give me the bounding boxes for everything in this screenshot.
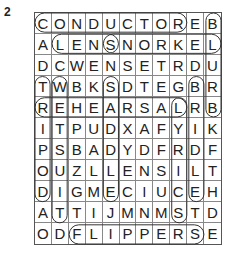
- grid-cell[interactable]: N: [120, 34, 137, 55]
- grid-cell[interactable]: L: [170, 97, 187, 118]
- grid-cell[interactable]: F: [204, 139, 221, 160]
- grid-cell[interactable]: P: [69, 118, 86, 139]
- grid-cell[interactable]: E: [187, 13, 204, 34]
- grid-cell[interactable]: E: [187, 181, 204, 202]
- grid-cell[interactable]: D: [204, 202, 221, 223]
- grid-cell[interactable]: C: [170, 181, 187, 202]
- grid-cell[interactable]: R: [204, 76, 221, 97]
- grid-cell[interactable]: L: [86, 160, 103, 181]
- grid-cell[interactable]: L: [187, 160, 204, 181]
- grid-cell[interactable]: E: [187, 34, 204, 55]
- grid-cell[interactable]: A: [35, 34, 52, 55]
- grid-cell[interactable]: T: [52, 202, 69, 223]
- grid-cell[interactable]: E: [86, 97, 103, 118]
- grid-cell[interactable]: L: [86, 223, 103, 244]
- grid-cell[interactable]: R: [35, 97, 52, 118]
- grid-cell[interactable]: I: [187, 118, 204, 139]
- grid-cell[interactable]: T: [35, 76, 52, 97]
- grid-cell[interactable]: L: [204, 34, 221, 55]
- grid-cell[interactable]: J: [103, 202, 120, 223]
- grid-cell[interactable]: N: [136, 160, 153, 181]
- grid-cell[interactable]: I: [103, 223, 120, 244]
- grid-cell[interactable]: M: [120, 202, 137, 223]
- grid-cell[interactable]: O: [136, 34, 153, 55]
- grid-cell[interactable]: E: [204, 223, 221, 244]
- grid-cell[interactable]: S: [103, 34, 120, 55]
- grid-cell[interactable]: S: [170, 202, 187, 223]
- grid-cell[interactable]: A: [153, 97, 170, 118]
- grid-cell[interactable]: R: [170, 139, 187, 160]
- grid-cell[interactable]: D: [103, 139, 120, 160]
- grid-cell[interactable]: E: [120, 160, 137, 181]
- grid-cell[interactable]: U: [204, 55, 221, 76]
- grid-cell[interactable]: N: [136, 202, 153, 223]
- grid-cell[interactable]: O: [35, 223, 52, 244]
- grid-cell[interactable]: U: [52, 160, 69, 181]
- grid-cell[interactable]: O: [153, 13, 170, 34]
- grid-cell[interactable]: S: [187, 223, 204, 244]
- grid-cell[interactable]: E: [153, 76, 170, 97]
- grid-cell[interactable]: N: [103, 55, 120, 76]
- grid-cell[interactable]: R: [170, 223, 187, 244]
- grid-cell[interactable]: A: [136, 118, 153, 139]
- grid-cell[interactable]: T: [136, 13, 153, 34]
- grid-cell[interactable]: T: [153, 55, 170, 76]
- grid-cell[interactable]: B: [204, 97, 221, 118]
- grid-cell[interactable]: L: [52, 34, 69, 55]
- grid-cell[interactable]: O: [52, 13, 69, 34]
- grid-cell[interactable]: L: [103, 160, 120, 181]
- grid-cell[interactable]: T: [69, 202, 86, 223]
- grid-cell[interactable]: Z: [69, 160, 86, 181]
- grid-cell[interactable]: H: [204, 181, 221, 202]
- grid-cell[interactable]: W: [52, 76, 69, 97]
- grid-cell[interactable]: P: [136, 223, 153, 244]
- grid-cell[interactable]: N: [86, 34, 103, 55]
- grid-cell[interactable]: K: [204, 118, 221, 139]
- grid-cell[interactable]: B: [187, 76, 204, 97]
- grid-cell[interactable]: R: [153, 34, 170, 55]
- grid-cell[interactable]: C: [52, 55, 69, 76]
- grid-cell[interactable]: I: [52, 181, 69, 202]
- grid-cell[interactable]: G: [69, 181, 86, 202]
- grid-cell[interactable]: A: [86, 139, 103, 160]
- grid-cell[interactable]: S: [52, 139, 69, 160]
- grid-cell[interactable]: B: [69, 76, 86, 97]
- grid-cell[interactable]: E: [103, 181, 120, 202]
- grid-cell[interactable]: E: [136, 55, 153, 76]
- grid-cell[interactable]: F: [69, 223, 86, 244]
- grid-cell[interactable]: K: [86, 76, 103, 97]
- grid-cell[interactable]: T: [52, 118, 69, 139]
- grid-cell[interactable]: D: [35, 181, 52, 202]
- grid-cell[interactable]: I: [170, 160, 187, 181]
- grid-cell[interactable]: R: [187, 97, 204, 118]
- grid-cell[interactable]: H: [69, 97, 86, 118]
- grid-cell[interactable]: D: [187, 139, 204, 160]
- grid-cell[interactable]: D: [187, 55, 204, 76]
- grid-cell[interactable]: M: [153, 202, 170, 223]
- grid-cell[interactable]: E: [69, 34, 86, 55]
- grid-cell[interactable]: Y: [170, 118, 187, 139]
- grid-cell[interactable]: R: [170, 13, 187, 34]
- grid-cell[interactable]: D: [103, 118, 120, 139]
- grid-cell[interactable]: S: [103, 76, 120, 97]
- grid-cell[interactable]: E: [52, 97, 69, 118]
- grid-cell[interactable]: E: [153, 223, 170, 244]
- grid-cell[interactable]: A: [103, 97, 120, 118]
- grid-cell[interactable]: W: [69, 55, 86, 76]
- grid-cell[interactable]: T: [136, 76, 153, 97]
- grid-cell[interactable]: I: [35, 118, 52, 139]
- grid-cell[interactable]: D: [52, 223, 69, 244]
- grid-cell[interactable]: F: [153, 118, 170, 139]
- grid-cell[interactable]: B: [204, 13, 221, 34]
- grid-cell[interactable]: A: [35, 202, 52, 223]
- grid-cell[interactable]: I: [86, 202, 103, 223]
- grid-cell[interactable]: P: [120, 223, 137, 244]
- grid-cell[interactable]: C: [35, 13, 52, 34]
- grid-cell[interactable]: U: [103, 13, 120, 34]
- grid-cell[interactable]: T: [187, 202, 204, 223]
- grid-cell[interactable]: O: [35, 160, 52, 181]
- grid-cell[interactable]: R: [120, 97, 137, 118]
- grid-cell[interactable]: F: [153, 139, 170, 160]
- grid-cell[interactable]: T: [204, 160, 221, 181]
- grid-cell[interactable]: C: [120, 13, 137, 34]
